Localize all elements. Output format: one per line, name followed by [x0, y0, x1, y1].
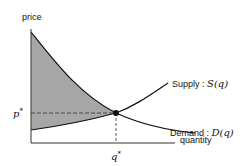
supply-label: Supply : S(q)	[172, 78, 228, 89]
supply-demand-diagram: price quantity Supply : S(q) Demand : D(…	[0, 0, 245, 166]
q-star-label: q*	[111, 150, 121, 162]
demand-label: Demand : D(q)	[170, 127, 234, 138]
equilibrium-point	[113, 110, 119, 116]
p-star-label: p*	[13, 107, 23, 119]
y-axis-label: price	[22, 12, 42, 22]
